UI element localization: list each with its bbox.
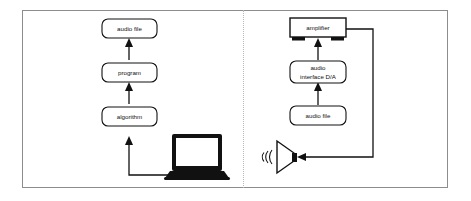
laptop-icon[interactable] (164, 134, 230, 180)
arrow-algorithm-to-program (125, 82, 133, 104)
node-amplifier[interactable]: amplifier (290, 18, 346, 41)
arrow-interface-to-amplifier (314, 38, 322, 60)
speaker-icon[interactable] (262, 141, 297, 173)
arrow-audiofile-to-interface (314, 82, 322, 105)
node-algorithm-label: algorithm (117, 113, 142, 120)
diagram-artwork: audio file program algorithm (0, 0, 471, 201)
node-audio-interface-label-line1: audio (310, 64, 326, 71)
diagram-canvas: audio file program algorithm (0, 0, 471, 201)
node-audio-file-input-label: audio file (306, 112, 331, 119)
left-panel-group: audio file program algorithm (102, 19, 230, 180)
arrow-program-to-audiofile (125, 38, 133, 60)
node-audio-interface-label-line2: interface D/A (300, 73, 337, 80)
node-program[interactable]: program (102, 63, 157, 82)
node-audio-file-output[interactable]: audio file (102, 19, 157, 38)
node-amplifier-label: amplifier (306, 24, 329, 31)
right-panel-group: amplifier audio interface D/A audio file (262, 18, 373, 173)
cable-amplifier-to-speaker (297, 29, 373, 161)
node-audio-interface[interactable]: audio interface D/A (290, 61, 346, 83)
node-audio-file-output-label: audio file (117, 25, 142, 32)
node-algorithm[interactable]: algorithm (102, 107, 157, 126)
node-program-label: program (118, 69, 141, 76)
node-audio-file-input[interactable]: audio file (290, 106, 346, 125)
